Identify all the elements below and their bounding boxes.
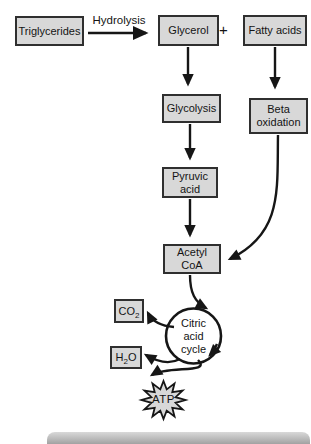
node-citric-acid-cycle-label: Citric acid cycle (169, 317, 218, 355)
node-acetyl-coa: Acetyl CoA (163, 244, 221, 274)
node-h2o-label: H2O (116, 351, 137, 364)
node-pyruvic-acid: Pyruvic acid (162, 167, 218, 198)
node-atp-label: ATP (147, 393, 180, 405)
node-triglycerides-label: Triglycerides (19, 25, 81, 38)
node-h2o: H2O (110, 346, 142, 369)
arrow-acetylcoa-to-cycle (190, 275, 206, 308)
node-acetyl-coa-label: Acetyl CoA (177, 246, 207, 272)
node-pyruvic-acid-label: Pyruvic acid (172, 170, 208, 196)
node-glycolysis: Glycolysis (162, 94, 221, 123)
node-fatty-acids: Fatty acids (243, 15, 307, 46)
node-beta-oxidation: Beta oxidation (249, 98, 308, 134)
node-fatty-acids-label: Fatty acids (248, 24, 301, 37)
node-beta-oxidation-label: Beta oxidation (256, 103, 300, 129)
arrow-betaoxidation-to-acetylcoa (230, 135, 278, 259)
node-co2-label: CO2 (119, 305, 140, 318)
node-glycerol: Glycerol (158, 15, 219, 46)
plus-sign: + (219, 21, 228, 38)
node-co2: CO2 (114, 299, 144, 323)
footer-caption-bar (47, 432, 310, 444)
edge-label-hydrolysis: Hydrolysis (86, 14, 152, 26)
node-glycolysis-label: Glycolysis (167, 102, 217, 115)
node-triglycerides: Triglycerides (15, 16, 84, 46)
node-glycerol-label: Glycerol (168, 24, 208, 37)
